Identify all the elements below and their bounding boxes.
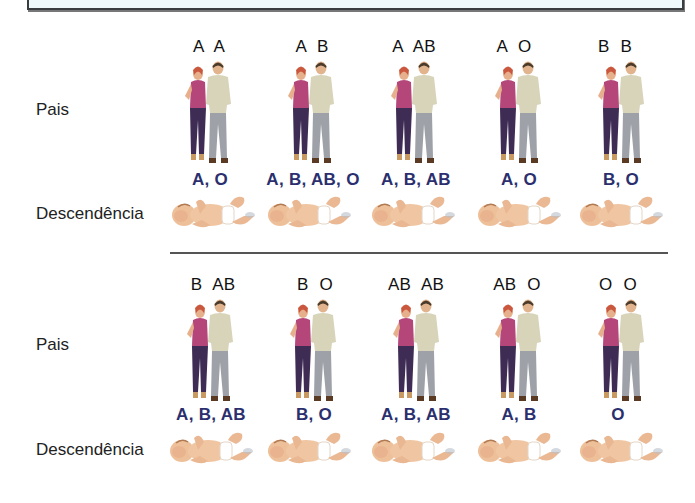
couple-illustration xyxy=(593,296,653,406)
parents-blood-types: B B xyxy=(565,37,665,57)
baby-illustration xyxy=(476,194,562,232)
baby-illustration xyxy=(370,194,456,232)
parents-blood-types: A O xyxy=(464,37,564,57)
offspring-blood-types: O xyxy=(553,405,683,425)
couple-illustration xyxy=(490,296,550,406)
parents-blood-types: A A xyxy=(159,37,259,57)
parents-blood-types: AB AB xyxy=(366,275,466,295)
baby-illustration xyxy=(266,194,352,232)
baby-illustration xyxy=(370,430,456,468)
couple-illustration xyxy=(388,296,448,406)
parents-blood-types: AB O xyxy=(467,275,567,295)
offspring-row-label: Descendência xyxy=(36,440,144,460)
parents-blood-types: A AB xyxy=(364,37,464,57)
parents-row-label: Pais xyxy=(36,335,69,355)
couple-illustration xyxy=(283,58,343,168)
couple-illustration xyxy=(182,296,242,406)
baby-illustration xyxy=(168,430,254,468)
baby-illustration xyxy=(266,430,352,468)
baby-illustration xyxy=(578,430,664,468)
offspring-row-label: Descendência xyxy=(36,204,144,224)
baby-illustration xyxy=(170,194,256,232)
row-divider xyxy=(170,252,668,254)
parents-row-label: Pais xyxy=(36,100,69,120)
couple-illustration xyxy=(386,58,446,168)
offspring-blood-types: B, O xyxy=(556,170,686,190)
title-box xyxy=(27,0,684,10)
parents-blood-types: B O xyxy=(265,275,365,295)
couple-illustration xyxy=(593,58,653,168)
couple-illustration xyxy=(490,58,550,168)
couple-illustration xyxy=(285,296,345,406)
parents-blood-types: O O xyxy=(568,275,668,295)
couple-illustration xyxy=(180,58,240,168)
baby-illustration xyxy=(476,430,562,468)
parents-blood-types: A B xyxy=(262,37,362,57)
baby-illustration xyxy=(578,194,664,232)
parents-blood-types: B AB xyxy=(163,275,263,295)
